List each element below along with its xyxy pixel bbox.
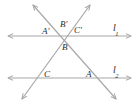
line-label-l1: l1 [113,23,119,36]
point-label-a-prime: A' [42,27,49,36]
point-label-c-prime: C' [74,26,82,35]
geometry-diagram [0,0,137,106]
line-label-l2: l2 [113,65,119,78]
line-label-l2-subscript: 2 [115,72,118,79]
point-label-a: A [86,70,92,79]
transversal-right-descending [22,5,90,99]
line-label-l1-subscript: 1 [115,30,118,37]
point-label-b-prime: B' [60,20,67,29]
point-label-b: B [62,43,68,52]
point-label-c: C [44,70,50,79]
transversal-left-descending [33,5,116,99]
